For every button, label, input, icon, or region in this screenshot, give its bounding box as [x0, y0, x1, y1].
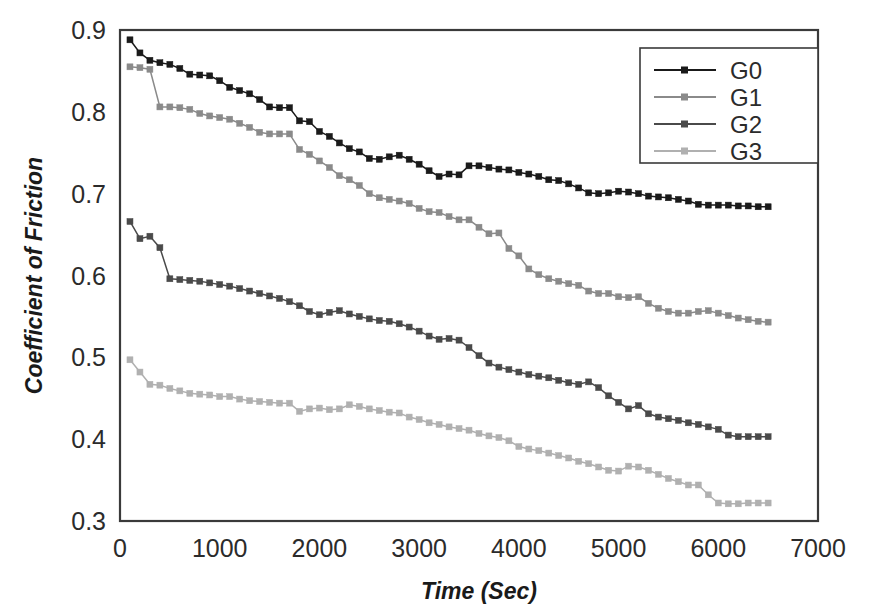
data-point-marker — [576, 282, 582, 288]
data-point-marker — [466, 345, 472, 351]
data-point-marker — [456, 426, 462, 432]
data-point-marker — [586, 461, 592, 467]
data-point-marker — [287, 131, 293, 137]
data-point-marker — [356, 182, 362, 188]
data-point-marker — [406, 324, 412, 330]
data-point-marker — [446, 336, 452, 342]
data-point-marker — [237, 396, 243, 402]
data-point-marker — [536, 448, 542, 454]
data-point-marker — [306, 406, 312, 412]
data-point-marker — [326, 164, 332, 170]
data-point-marker — [616, 468, 622, 474]
data-point-marker — [346, 146, 352, 152]
data-point-marker — [177, 105, 183, 111]
data-point-marker — [466, 427, 472, 433]
data-point-marker — [526, 171, 532, 177]
data-point-marker — [556, 178, 562, 184]
data-point-marker — [217, 78, 223, 84]
data-point-marker — [406, 156, 412, 162]
data-point-marker — [695, 421, 701, 427]
y-axis-tick-label: 0.5 — [71, 343, 106, 371]
data-point-marker — [316, 158, 322, 164]
data-point-marker — [576, 185, 582, 191]
data-point-marker — [476, 430, 482, 436]
data-point-marker — [277, 295, 283, 301]
legend-label-g0: G0 — [730, 57, 762, 84]
data-point-marker — [566, 281, 572, 287]
data-point-marker — [705, 202, 711, 208]
data-point-marker — [596, 464, 602, 470]
data-point-marker — [406, 414, 412, 420]
data-point-marker — [755, 434, 761, 440]
data-point-marker — [596, 191, 602, 197]
data-point-marker — [247, 398, 253, 404]
data-point-marker — [536, 272, 542, 278]
data-point-marker — [137, 50, 143, 56]
data-point-marker — [616, 188, 622, 194]
data-point-marker — [267, 293, 273, 299]
data-point-marker — [626, 295, 632, 301]
data-point-marker — [426, 209, 432, 215]
data-point-marker — [735, 315, 741, 321]
y-axis-tick-label: 0.4 — [71, 425, 106, 453]
data-point-marker — [655, 305, 661, 311]
data-point-marker — [486, 231, 492, 237]
data-point-marker — [386, 409, 392, 415]
data-point-marker — [287, 299, 293, 305]
data-point-marker — [486, 360, 492, 366]
data-point-marker — [636, 464, 642, 470]
data-point-marker — [586, 288, 592, 294]
data-point-marker — [436, 336, 442, 342]
x-axis-title: Time (Sec) — [421, 578, 537, 604]
data-point-marker — [127, 64, 133, 70]
data-point-marker — [267, 104, 273, 110]
data-point-marker — [207, 392, 213, 398]
data-point-marker — [636, 294, 642, 300]
data-point-marker — [566, 181, 572, 187]
data-point-marker — [705, 424, 711, 430]
data-point-marker — [725, 313, 731, 319]
data-point-marker — [645, 193, 651, 199]
data-point-marker — [725, 202, 731, 208]
data-point-marker — [157, 245, 163, 251]
y-axis-tick-label: 0.8 — [71, 98, 106, 126]
data-point-marker — [456, 337, 462, 343]
y-axis-tick-label: 0.9 — [71, 16, 106, 44]
data-point-marker — [167, 104, 173, 110]
data-point-marker — [576, 458, 582, 464]
data-point-marker — [745, 203, 751, 209]
data-point-marker — [237, 286, 243, 292]
data-point-marker — [147, 381, 153, 387]
data-point-marker — [665, 195, 671, 201]
data-point-marker — [546, 177, 552, 183]
data-point-marker — [735, 501, 741, 507]
data-point-marker — [705, 492, 711, 498]
data-point-marker — [207, 280, 213, 286]
data-point-marker — [566, 455, 572, 461]
data-point-marker — [516, 444, 522, 450]
data-point-marker — [336, 308, 342, 314]
data-point-marker — [157, 104, 163, 110]
legend-label-g2: G2 — [730, 111, 762, 138]
x-axis-tick-label: 4000 — [491, 534, 547, 562]
data-point-marker — [556, 377, 562, 383]
x-axis-tick-label: 0 — [113, 534, 127, 562]
legend-marker-g1 — [681, 94, 688, 101]
data-point-marker — [506, 438, 512, 444]
data-point-marker — [675, 417, 681, 423]
legend-marker-g0 — [681, 67, 688, 74]
data-point-marker — [745, 500, 751, 506]
data-point-marker — [765, 204, 771, 210]
data-point-marker — [326, 309, 332, 315]
y-axis-tick-label: 0.3 — [71, 507, 106, 535]
data-point-marker — [586, 379, 592, 385]
data-point-marker — [227, 283, 233, 289]
data-point-marker — [705, 308, 711, 314]
data-point-marker — [606, 190, 612, 196]
data-point-marker — [456, 217, 462, 223]
data-point-marker — [426, 420, 432, 426]
data-point-marker — [765, 319, 771, 325]
data-point-marker — [765, 500, 771, 506]
data-point-marker — [626, 189, 632, 195]
data-point-marker — [506, 246, 512, 252]
